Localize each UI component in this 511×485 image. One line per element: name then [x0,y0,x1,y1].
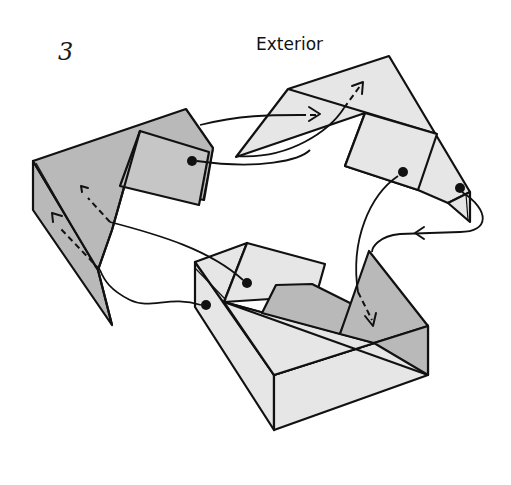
left-unit-dot [187,156,197,166]
top-right-unit-dot-inner [398,167,408,177]
origami-diagram: 3 Exterior [0,0,511,485]
top-right-unit-dot-tip [455,183,465,193]
bottom-box-dot-lower [201,300,211,310]
top-right-unit [236,56,470,222]
diagram-canvas [0,0,511,485]
bottom-box-dot-upper [242,278,252,288]
top-right-unit-main-face [236,56,470,203]
left-unit [33,109,213,325]
bottom-box-unit [195,243,428,430]
connector-bottom-lower-to-left [100,270,201,305]
